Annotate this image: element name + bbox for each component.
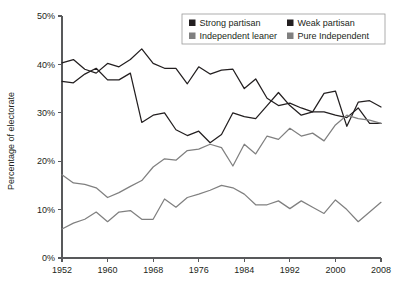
line-chart: Percentage of electorate 0%10%20%30%40%5… — [0, 0, 396, 289]
legend-swatch-weak-partisan — [287, 20, 294, 27]
y-axis-title: Percentage of electorate — [6, 92, 16, 190]
series-line-pure-independent — [62, 185, 381, 229]
legend-label-weak-partisan: Weak partisan — [298, 18, 355, 28]
x-tick-label: 1968 — [143, 265, 163, 275]
x-tick-label: 1992 — [280, 265, 300, 275]
series-line-strong-partisan — [62, 68, 381, 143]
y-tick-label: 10% — [37, 205, 55, 215]
x-tick-label: 2000 — [325, 265, 345, 275]
x-axis-ticks: 19521960196819761984199220002008 — [52, 258, 391, 275]
y-tick-label: 50% — [37, 11, 55, 21]
legend-label-pure-independent: Pure Independent — [298, 31, 370, 41]
y-tick-label: 30% — [37, 108, 55, 118]
chart-canvas: Percentage of electorate 0%10%20%30%40%5… — [0, 0, 396, 289]
y-axis-ticks: 0%10%20%30%40%50% — [37, 11, 62, 263]
y-tick-label: 40% — [37, 60, 55, 70]
legend-swatch-strong-partisan — [189, 20, 196, 27]
x-tick-label: 1976 — [189, 265, 209, 275]
x-tick-label: 1984 — [234, 265, 254, 275]
x-tick-label: 2008 — [371, 265, 391, 275]
legend-label-independent-leaner: Independent leaner — [200, 31, 278, 41]
x-tick-label: 1960 — [98, 265, 118, 275]
legend-label-strong-partisan: Strong partisan — [200, 18, 261, 28]
legend-swatch-independent-leaner — [189, 33, 196, 40]
legend-swatch-pure-independent — [287, 33, 294, 40]
series-line-weak-partisan — [62, 49, 381, 124]
chart-legend: Strong partisan Weak partisan Independen… — [182, 14, 385, 44]
y-tick-label: 20% — [37, 156, 55, 166]
series-lines — [62, 49, 381, 229]
x-tick-label: 1952 — [52, 265, 72, 275]
y-tick-label: 0% — [42, 253, 55, 263]
